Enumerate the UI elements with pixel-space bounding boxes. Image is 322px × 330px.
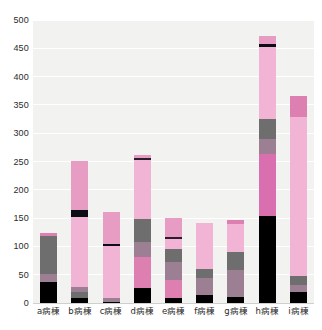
- bar-group[interactable]: [71, 20, 88, 303]
- x-tick-label: f病棟: [194, 305, 215, 317]
- y-tick-label: 350: [13, 100, 29, 109]
- bar-segment[interactable]: [134, 242, 151, 257]
- bar-stack[interactable]: [290, 96, 307, 303]
- bar-segment[interactable]: [103, 302, 120, 303]
- bar-segment[interactable]: [196, 223, 213, 268]
- y-tick-label: 400: [13, 72, 29, 81]
- bar-stack[interactable]: [103, 212, 120, 303]
- y-tick-label: 500: [13, 16, 29, 25]
- plot-area: [33, 20, 314, 303]
- y-tick-label: 0: [24, 299, 29, 308]
- bar-segment[interactable]: [71, 298, 88, 303]
- bar-stack[interactable]: [259, 36, 276, 303]
- bar-segment[interactable]: [165, 218, 182, 238]
- y-tick-label: 450: [13, 44, 29, 53]
- bar-segment[interactable]: [134, 257, 151, 288]
- bar-segment[interactable]: [71, 217, 88, 287]
- x-tick-label: i病棟: [288, 305, 308, 317]
- bar-segment[interactable]: [259, 216, 276, 303]
- bar-segment[interactable]: [196, 269, 213, 279]
- x-tick-label: h病棟: [255, 305, 278, 317]
- bar-group[interactable]: [40, 20, 57, 303]
- bar-segment[interactable]: [259, 139, 276, 154]
- bar-stack[interactable]: [71, 161, 88, 303]
- y-tick-label: 100: [13, 242, 29, 251]
- bar-segment[interactable]: [165, 262, 182, 281]
- bar-segment[interactable]: [165, 249, 182, 261]
- bar-segment[interactable]: [134, 288, 151, 303]
- bar-group[interactable]: [259, 20, 276, 303]
- bar-segment[interactable]: [196, 278, 213, 295]
- y-axis: 050100150200250300350400450500: [0, 0, 33, 330]
- bar-group[interactable]: [290, 20, 307, 303]
- bar-segment[interactable]: [71, 161, 88, 210]
- bar-segment[interactable]: [259, 154, 276, 216]
- bar-group[interactable]: [227, 20, 244, 303]
- bar-segment[interactable]: [227, 270, 244, 297]
- bar-segment[interactable]: [290, 276, 307, 285]
- x-tick-label: b病棟: [68, 305, 91, 317]
- bar-segment[interactable]: [71, 292, 88, 299]
- bar-stack[interactable]: [165, 218, 182, 303]
- y-tick-label: 200: [13, 185, 29, 194]
- x-tick-label: e病棟: [162, 305, 185, 317]
- bar-segment[interactable]: [196, 295, 213, 303]
- bar-segment[interactable]: [227, 224, 244, 252]
- bar-segment[interactable]: [259, 36, 276, 44]
- x-axis: a病棟b病棟c病棟d病棟e病棟f病棟g病棟h病棟i病棟: [33, 305, 314, 325]
- bar-segment[interactable]: [290, 96, 307, 117]
- bar-segment[interactable]: [71, 210, 88, 217]
- bar-group[interactable]: [134, 20, 151, 303]
- y-tick-label: 250: [13, 157, 29, 166]
- bar-segment[interactable]: [290, 117, 307, 276]
- bar-segment[interactable]: [40, 282, 57, 303]
- bar-segment[interactable]: [165, 239, 182, 249]
- bar-segment[interactable]: [134, 160, 151, 219]
- bar-segment[interactable]: [103, 246, 120, 298]
- bar-segment[interactable]: [259, 119, 276, 139]
- x-tick-label: a病棟: [37, 305, 60, 317]
- bar-segment[interactable]: [103, 212, 120, 243]
- bar-stack[interactable]: [134, 155, 151, 303]
- bar-stack[interactable]: [227, 220, 244, 303]
- bar-segment[interactable]: [227, 297, 244, 303]
- bar-segment[interactable]: [40, 274, 57, 282]
- bar-group[interactable]: [165, 20, 182, 303]
- bar-segment[interactable]: [165, 298, 182, 303]
- bar-segment[interactable]: [227, 252, 244, 271]
- bar-segment[interactable]: [259, 47, 276, 119]
- stacked-bar-chart: 050100150200250300350400450500 a病棟b病棟c病棟…: [0, 0, 322, 330]
- bar-segment[interactable]: [165, 280, 182, 298]
- y-tick-label: 150: [13, 214, 29, 223]
- bar-segment[interactable]: [40, 236, 57, 273]
- x-tick-label: c病棟: [100, 305, 123, 317]
- y-tick-label: 50: [19, 270, 29, 279]
- bar-segment[interactable]: [134, 219, 151, 242]
- bar-stack[interactable]: [196, 223, 213, 303]
- bar-segment[interactable]: [290, 285, 307, 292]
- bar-stack[interactable]: [40, 233, 57, 303]
- x-tick-label: g病棟: [224, 305, 247, 317]
- bar-group[interactable]: [196, 20, 213, 303]
- y-tick-label: 300: [13, 129, 29, 138]
- bar-group[interactable]: [103, 20, 120, 303]
- bar-segment[interactable]: [290, 292, 307, 303]
- x-tick-label: d病棟: [131, 305, 154, 317]
